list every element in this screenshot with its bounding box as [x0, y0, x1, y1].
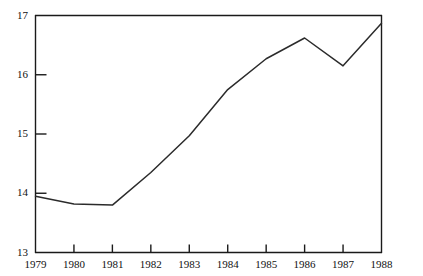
x-tick-label: 1983: [167, 258, 211, 270]
x-tick-marks: [74, 245, 343, 253]
y-tick-label: 13: [6, 246, 28, 258]
x-tick-label: 1986: [283, 258, 327, 270]
y-tick-label: 14: [6, 186, 28, 198]
chart-container: 1314151617 19791980198119821983198419851…: [0, 0, 423, 276]
y-tick-label: 16: [6, 68, 28, 80]
x-tick-label: 1980: [52, 258, 96, 270]
data-series-line: [36, 23, 382, 205]
x-tick-label: 1988: [360, 258, 404, 270]
line-chart-plot: [0, 0, 423, 276]
y-tick-label: 15: [6, 127, 28, 139]
x-tick-label: 1987: [321, 258, 365, 270]
x-tick-label: 1981: [90, 258, 134, 270]
x-tick-label: 1985: [244, 258, 288, 270]
x-tick-label: 1979: [14, 258, 58, 270]
x-tick-label: 1984: [206, 258, 250, 270]
y-tick-marks: [36, 75, 47, 194]
plot-frame: [35, 15, 382, 253]
y-tick-label: 17: [6, 9, 28, 21]
x-tick-label: 1982: [129, 258, 173, 270]
